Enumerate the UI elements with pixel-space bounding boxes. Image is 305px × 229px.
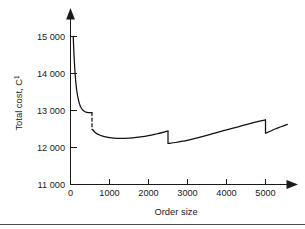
cost-vs-order-size-chart: 15 000 14 000 13 000 12 000 11 000 Total… [0, 0, 305, 229]
y-tick-label-15000: 15 000 [37, 32, 65, 42]
x-tick-label-4000: 4000 [216, 188, 236, 198]
x-tick-label-1000: 1000 [99, 188, 119, 198]
y-tick-label-13000: 13 000 [37, 106, 65, 116]
x-tick-label-0: 0 [68, 188, 73, 198]
x-tick-label-5000: 5000 [255, 188, 275, 198]
x-axis-title: Order size [154, 206, 197, 217]
y-tick-label-14000: 14 000 [37, 69, 65, 79]
y-axis-title-text: Total cost, C [13, 79, 24, 131]
y-tick-label-11000: 11 000 [38, 180, 65, 190]
y-tick-label-12000: 12 000 [37, 143, 65, 153]
y-axis-title-group: Total cost, C1 [13, 75, 24, 131]
y-axis-title: Total cost, C1 [13, 75, 24, 131]
x-tick-label-2000: 2000 [138, 188, 158, 198]
x-tick-label-3000: 3000 [177, 188, 197, 198]
y-axis-title-superscript: 1 [13, 75, 20, 79]
chart-figure: 15 000 14 000 13 000 12 000 11 000 Total… [0, 0, 305, 229]
